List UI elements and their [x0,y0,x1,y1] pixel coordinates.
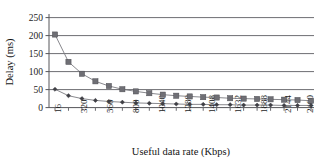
data-point-diamond [120,100,124,104]
ytick-150: 150 [29,49,44,59]
xtick-9: 1888 [259,95,269,114]
data-point-square [66,59,71,64]
data-point-square [214,95,219,100]
data-point-diamond [268,103,272,107]
data-point-square [201,95,206,100]
ytick-250: 250 [29,13,44,23]
data-point-square [295,97,300,102]
data-point-square [255,96,260,101]
series-squares-markers [52,32,313,103]
data-point-diamond [147,101,151,105]
xtick-1: 16 [53,104,63,114]
delay-vs-datarate-chart: 250 200 150 100 50 0 Delay (ms) 16 320 5… [0,0,329,166]
data-point-diamond [174,102,178,106]
ytick-50: 50 [34,85,44,95]
axes [49,14,314,108]
data-point-diamond [228,103,232,107]
data-point-square [93,79,98,84]
data-point-square [174,93,179,98]
chart-figure: 250 200 150 100 50 0 Delay (ms) 16 320 5… [0,0,329,166]
data-point-square [160,92,165,97]
ytick-0: 0 [38,103,43,113]
data-point-diamond [295,103,299,107]
data-point-diamond [93,98,97,102]
data-point-square [106,83,111,88]
data-point-square [133,89,138,94]
data-point-square [147,91,152,96]
gridlines [49,18,314,90]
y-tick-marks [46,18,50,108]
y-tick-labels: 250 200 150 100 50 0 [29,13,44,113]
data-point-square [308,98,313,103]
data-point-square [79,71,84,76]
series-squares [52,32,313,103]
data-point-square [281,97,286,102]
data-point-square [52,32,57,37]
x-tick-labels: 16 320 560 800 1040 1280 1408 1632 1888 … [53,95,315,114]
data-point-square [268,97,273,102]
data-point-diamond [66,94,70,98]
x-axis-title: Useful data rate (Kbps) [132,146,231,158]
data-point-square [228,96,233,101]
data-point-diamond [53,87,57,91]
data-point-square [187,94,192,99]
data-point-square [120,87,125,92]
xtick-2: 320 [79,99,89,113]
data-point-square [241,96,246,101]
ytick-200: 200 [29,31,44,41]
y-axis-title: Delay (ms) [4,38,16,85]
series-squares-line [55,35,311,101]
ytick-100: 100 [29,67,44,77]
xtick-11: 2400 [305,95,315,114]
data-point-diamond [201,102,205,106]
